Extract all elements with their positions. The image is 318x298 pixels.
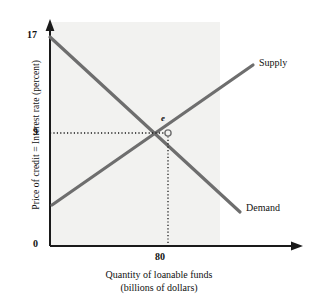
- origin-label: 0: [33, 239, 38, 249]
- demand-curve-label: Demand: [246, 203, 280, 213]
- supply-curve: [52, 65, 253, 205]
- y-axis-arrow-icon: [46, 19, 55, 31]
- x-axis-arrow-icon: [291, 242, 303, 251]
- y-tick-label-17: 17: [27, 30, 37, 40]
- x-axis-title-line2: (billions of dollars): [0, 283, 318, 293]
- equilibrium-point-label: e: [161, 114, 165, 123]
- loanable-funds-chart: Price of credit = Interest rate (percent…: [0, 0, 318, 298]
- y-tick-label-9: 9: [33, 127, 38, 137]
- supply-curve-label: Supply: [259, 58, 287, 68]
- equilibrium-point-marker: [165, 130, 171, 136]
- x-axis-title-line1: Quantity of loanable funds: [0, 270, 318, 280]
- x-tick-label-80: 80: [155, 252, 165, 262]
